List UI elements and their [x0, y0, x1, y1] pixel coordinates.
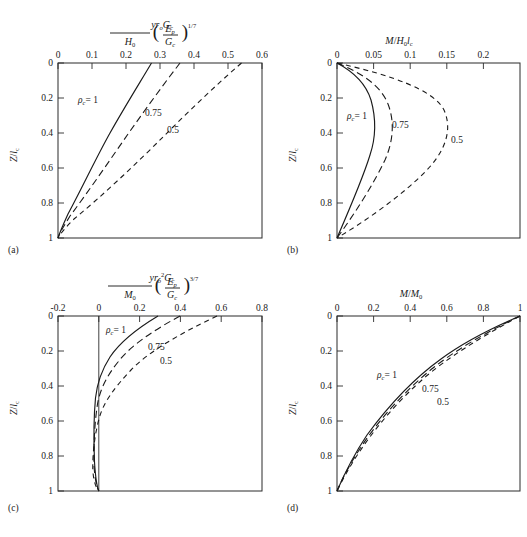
- svg-text:Gc: Gc: [167, 289, 177, 301]
- panel-b-xaxis-title: M/H0lc: [384, 35, 412, 47]
- panel-b-ytick-5: 1: [327, 233, 332, 243]
- panel-a-xtick-5: 0.5: [222, 50, 234, 60]
- panel-c-xaxis-title: yro2Gc M0 ( Ep Gc ) 3/7: [108, 271, 199, 301]
- panel-a-label-rho1: ρc= 1: [77, 95, 98, 106]
- panel-b-label-rho1: ρc= 1: [346, 111, 367, 122]
- panel-a-xtick-4: 0.4: [188, 50, 200, 60]
- panel-a-ytick-0: 0: [48, 58, 53, 68]
- panel-a-xtick-2: 0.2: [120, 50, 132, 60]
- panel-b-xticks: 0 0.05 0.1 0.15 0.2: [335, 50, 490, 69]
- panel-b-yaxis-title: Z/lc: [287, 148, 299, 162]
- panel-c-ytick-0: 0: [48, 311, 53, 321]
- panel-b-ytick-1: 0.2: [320, 93, 332, 103]
- panel-c-xtick-3: 0.4: [174, 303, 186, 313]
- panel-b-xtick-3: 0.15: [438, 50, 455, 60]
- panel-b-yticks: 0 0.2 0.4 0.6 0.8 1: [320, 58, 343, 243]
- panel-d: M/M0 0 0.2 0.4 0.6 0.8 1: [259, 262, 527, 537]
- panel-a: yroGc H0 ( Ep Gc ) 1/7: [0, 0, 268, 268]
- panel-a-ytick-1: 0.2: [41, 93, 53, 103]
- four-panel-figure: yroGc H0 ( Ep Gc ) 1/7: [0, 0, 527, 537]
- panel-d-xtick-1: 0.2: [368, 303, 380, 313]
- svg-text:H0: H0: [124, 36, 135, 48]
- svg-text:Z/lc: Z/lc: [8, 401, 20, 415]
- panel-a-ytick-4: 0.8: [41, 198, 53, 208]
- panel-b-curve-05: [337, 63, 448, 238]
- panel-b-plot: M/H0lc 0 0.05 0.1 0.15 0.2: [259, 0, 527, 268]
- panel-c-label-05: 0.5: [160, 356, 172, 366]
- panel-d-xtick-0: 0: [335, 303, 340, 313]
- panel-c-plot: yro2Gc M0 ( Ep Gc ) 3/7: [0, 262, 268, 537]
- panel-a-xticks: 0 0.1 0.2 0.3 0.4 0.5 0.6: [56, 50, 268, 69]
- svg-text:ρc= 1: ρc= 1: [346, 111, 367, 122]
- panel-b-letter: (b): [287, 245, 298, 256]
- panel-d-ytick-2: 0.4: [320, 381, 332, 391]
- panel-d-curve-rho1: [337, 316, 520, 491]
- panel-a-xtick-0: 0: [56, 50, 61, 60]
- panel-d-ytick-0: 0: [327, 311, 332, 321]
- panel-b-label-075: 0.75: [392, 120, 409, 130]
- panel-c-ytick-2: 0.4: [41, 381, 53, 391]
- panel-c-label-075: 0.75: [148, 342, 165, 352]
- panel-b-frame: [337, 63, 520, 238]
- panel-c-ytick-1: 0.2: [41, 346, 53, 356]
- panel-d-ytick-1: 0.2: [320, 346, 332, 356]
- panel-a-plot: yroGc H0 ( Ep Gc ) 1/7: [0, 0, 268, 268]
- panel-c-xtick-1: 0: [96, 303, 101, 313]
- panel-a-ytick-2: 0.4: [41, 128, 53, 138]
- panel-d-xticks: 0 0.2 0.4 0.6 0.8 1: [335, 303, 523, 322]
- panel-d-xtick-4: 0.8: [477, 303, 489, 313]
- panel-d-xtick-3: 0.6: [441, 303, 453, 313]
- panel-d-xaxis-title: M/M0: [399, 288, 423, 300]
- panel-a-curve-rho1: [58, 63, 152, 238]
- svg-text:ρc= 1: ρc= 1: [77, 95, 98, 106]
- panel-c-xtick-2: 0.2: [134, 303, 146, 313]
- panel-d-curve-05: [337, 316, 520, 491]
- panel-d-xtick-5: 1: [518, 303, 523, 313]
- panel-d-ytick-3: 0.6: [320, 416, 332, 426]
- panel-b-xtick-4: 0.2: [477, 50, 489, 60]
- panel-d-ytick-5: 1: [327, 486, 332, 496]
- svg-text:Ep: Ep: [166, 276, 177, 288]
- panel-c: yro2Gc M0 ( Ep Gc ) 3/7: [0, 262, 268, 537]
- panel-d-plot: M/M0 0 0.2 0.4 0.6 0.8 1: [259, 262, 527, 537]
- panel-b-ytick-3: 0.6: [320, 163, 332, 173]
- svg-text:1/7: 1/7: [188, 22, 197, 29]
- svg-text:(: (: [155, 274, 161, 296]
- panel-c-yticks: 0 0.2 0.4 0.6 0.8 1: [41, 311, 64, 496]
- svg-text:ρc= 1: ρc= 1: [376, 370, 397, 381]
- panel-b: M/H0lc 0 0.05 0.1 0.15 0.2: [259, 0, 527, 268]
- svg-text:Gc: Gc: [165, 36, 175, 48]
- panel-a-curve-075: [58, 63, 180, 238]
- panel-a-yticks: 0 0.2 0.4 0.6 0.8 1: [41, 58, 64, 243]
- panel-c-ytick-3: 0.6: [41, 416, 53, 426]
- panel-c-label-rho1: ρc= 1: [105, 325, 126, 336]
- panel-d-yaxis-title: Z/lc: [287, 401, 299, 415]
- panel-d-label-075: 0.75: [422, 384, 439, 394]
- panel-a-yaxis-title: Z/lc: [8, 148, 20, 162]
- svg-text:M0: M0: [123, 289, 136, 301]
- panel-d-xtick-2: 0.4: [404, 303, 416, 313]
- panel-a-letter: (a): [8, 245, 19, 256]
- panel-d-frame: [337, 316, 520, 491]
- panel-a-ytick-3: 0.6: [41, 163, 53, 173]
- panel-b-xtick-1: 0.05: [365, 50, 382, 60]
- panel-b-xtick-2: 0.1: [404, 50, 416, 60]
- panel-b-ytick-2: 0.4: [320, 128, 332, 138]
- panel-b-label-05: 0.5: [451, 135, 463, 145]
- panel-d-curve-075: [337, 316, 520, 491]
- panel-d-letter: (d): [287, 503, 298, 514]
- panel-c-yaxis-title: Z/lc: [8, 401, 20, 415]
- panel-b-xtick-0: 0: [335, 50, 340, 60]
- svg-text:3/7: 3/7: [190, 275, 199, 282]
- panel-a-xtick-1: 0.1: [86, 50, 98, 60]
- panel-b-ytick-4: 0.8: [320, 198, 332, 208]
- panel-c-xtick-4: 0.6: [215, 303, 227, 313]
- panel-a-curve-05: [58, 63, 242, 238]
- panel-a-label-05: 0.5: [167, 125, 179, 135]
- svg-text:(: (: [153, 21, 159, 43]
- svg-text:Ep: Ep: [164, 23, 175, 35]
- panel-a-xtick-3: 0.3: [154, 50, 166, 60]
- panel-d-label-rho1: ρc= 1: [376, 370, 397, 381]
- panel-a-label-075: 0.75: [145, 108, 162, 118]
- panel-c-letter: (c): [8, 503, 19, 514]
